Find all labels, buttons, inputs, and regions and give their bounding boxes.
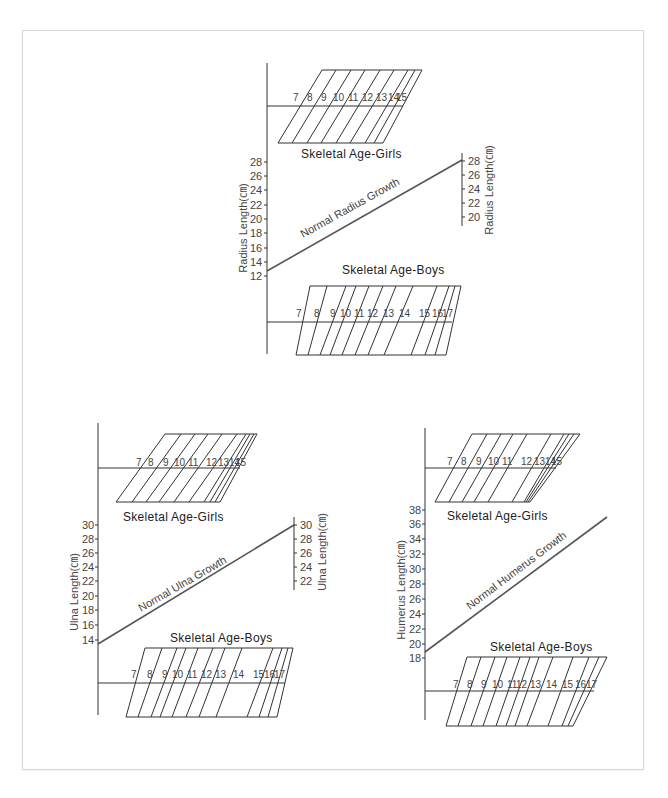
svg-text:22: 22 [82, 575, 94, 587]
ulna-girls-scale [98, 434, 257, 502]
svg-text:9: 9 [321, 92, 327, 103]
svg-text:34: 34 [409, 533, 421, 545]
svg-text:12: 12 [521, 456, 533, 467]
ulna-growth-label: Normal Ulna Growth [136, 554, 228, 614]
humerus-growth-label: Normal Humerus Growth [464, 529, 568, 612]
svg-text:7: 7 [293, 92, 299, 103]
svg-text:9: 9 [163, 457, 169, 468]
svg-text:12: 12 [206, 457, 218, 468]
radius-right-ticks: 28 26 24 22 20 [462, 155, 480, 223]
svg-text:10: 10 [172, 669, 184, 680]
svg-text:24: 24 [409, 608, 421, 620]
ulna-diagram: 7 8 9 10 11 12 13 14 15 Skeletal Age-Gir… [68, 423, 328, 717]
svg-text:18: 18 [409, 652, 421, 664]
svg-text:26: 26 [300, 547, 312, 559]
humerus-boys-scale [425, 657, 607, 726]
svg-text:22: 22 [300, 575, 312, 587]
svg-text:36: 36 [409, 518, 421, 530]
skeletal-age-nomograms: 7 8 9 10 11 12 13 14 15 Skeletal Age-Gir… [0, 0, 668, 798]
svg-text:12: 12 [250, 270, 262, 282]
svg-text:17: 17 [442, 308, 454, 319]
radius-girls-scale [267, 70, 422, 143]
humerus-boys-age-labels: 7 8 9 10 11 12 13 14 15 16 17 [453, 679, 598, 690]
svg-text:26: 26 [250, 170, 262, 182]
radius-growth-line [267, 160, 462, 271]
svg-text:18: 18 [82, 604, 94, 616]
svg-text:13: 13 [383, 308, 395, 319]
humerus-left-ticks: 38 36 34 32 30 28 26 24 22 20 18 [409, 504, 425, 664]
svg-text:20: 20 [82, 590, 94, 602]
svg-text:10: 10 [340, 308, 352, 319]
svg-text:20: 20 [409, 638, 421, 650]
radius-girls-title: Skeletal Age-Girls [301, 147, 402, 161]
svg-text:16: 16 [82, 619, 94, 631]
svg-text:11: 11 [354, 308, 365, 319]
svg-text:10: 10 [492, 679, 504, 690]
humerus-girls-scale [425, 434, 580, 502]
svg-text:9: 9 [162, 669, 168, 680]
svg-text:22: 22 [468, 197, 480, 209]
ulna-right-axis-label: Ulna Length(㎝) [316, 513, 328, 591]
svg-text:17: 17 [274, 669, 286, 680]
svg-text:15: 15 [419, 308, 431, 319]
svg-text:20: 20 [250, 213, 262, 225]
svg-text:13: 13 [530, 679, 542, 690]
radius-boys-title: Skeletal Age-Boys [342, 263, 445, 277]
svg-text:15: 15 [253, 669, 265, 680]
svg-text:13: 13 [534, 456, 546, 467]
svg-text:10: 10 [333, 92, 345, 103]
svg-text:7: 7 [136, 457, 142, 468]
svg-text:7: 7 [447, 456, 453, 467]
svg-text:30: 30 [82, 519, 94, 531]
radius-growth-label: Normal Radius Growth [298, 175, 401, 239]
svg-text:15: 15 [396, 92, 408, 103]
svg-text:10: 10 [174, 457, 186, 468]
svg-text:22: 22 [250, 199, 262, 211]
svg-text:7: 7 [131, 669, 137, 680]
radius-girls-age-labels: 7 8 9 10 11 12 13 14 15 [293, 92, 408, 103]
svg-text:7: 7 [453, 679, 459, 690]
svg-text:24: 24 [300, 561, 312, 573]
svg-text:8: 8 [147, 669, 153, 680]
svg-text:38: 38 [409, 504, 421, 516]
svg-text:8: 8 [467, 679, 473, 690]
svg-text:14: 14 [399, 308, 411, 319]
radius-diagram: 7 8 9 10 11 12 13 14 15 Skeletal Age-Gir… [237, 63, 495, 355]
svg-text:18: 18 [250, 227, 262, 239]
svg-text:10: 10 [488, 456, 500, 467]
radius-boys-scale [267, 286, 461, 355]
svg-text:32: 32 [409, 548, 421, 560]
ulna-girls-title: Skeletal Age-Girls [123, 510, 224, 524]
svg-text:12: 12 [516, 679, 528, 690]
humerus-diagram: 7 8 9 10 11 12 13 14 15 Skeletal Age-Gir… [395, 428, 607, 726]
ulna-boys-scale [98, 648, 293, 717]
svg-text:14: 14 [233, 669, 245, 680]
svg-text:12: 12 [362, 92, 374, 103]
svg-text:13: 13 [215, 669, 227, 680]
ulna-boys-title: Skeletal Age-Boys [170, 631, 273, 645]
radius-right-axis-label: Radius Length(㎝) [483, 145, 495, 234]
svg-text:28: 28 [250, 156, 262, 168]
radius-left-ticks: 28 26 24 22 20 18 16 14 12 [250, 156, 267, 282]
humerus-left-axis-label: Humerus Length(㎝) [395, 540, 407, 640]
svg-text:28: 28 [300, 533, 312, 545]
svg-text:8: 8 [307, 92, 313, 103]
svg-text:13: 13 [218, 457, 230, 468]
ulna-left-axis-label: Ulna Length(㎝) [68, 553, 80, 631]
svg-text:15: 15 [551, 456, 563, 467]
svg-text:17: 17 [586, 679, 598, 690]
svg-text:11: 11 [187, 669, 198, 680]
ulna-left-ticks: 30 28 26 24 22 20 18 16 14 [82, 519, 98, 646]
svg-text:9: 9 [481, 679, 487, 690]
svg-text:28: 28 [409, 578, 421, 590]
svg-text:12: 12 [367, 308, 379, 319]
svg-text:16: 16 [250, 242, 262, 254]
svg-text:26: 26 [82, 547, 94, 559]
svg-text:15: 15 [235, 457, 247, 468]
svg-text:13: 13 [376, 92, 388, 103]
svg-text:8: 8 [314, 308, 320, 319]
svg-text:24: 24 [250, 184, 262, 196]
humerus-growth-line [425, 517, 607, 652]
svg-text:14: 14 [82, 634, 94, 646]
svg-text:11: 11 [502, 456, 513, 467]
